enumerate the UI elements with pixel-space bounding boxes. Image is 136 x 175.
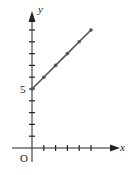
data-point — [42, 75, 46, 79]
y-axis-label: y — [37, 3, 43, 15]
line-chart: y x O 5 — [0, 0, 136, 175]
data-point — [66, 52, 70, 56]
x-axis-label: x — [119, 141, 125, 153]
origin-label: O — [20, 152, 28, 164]
series-line — [32, 30, 91, 89]
y-axis-arrow-icon — [29, 11, 36, 22]
data-point — [30, 87, 34, 91]
data-point — [89, 28, 93, 32]
y-tick-label-5: 5 — [20, 83, 26, 95]
axis-ticks — [29, 30, 91, 151]
data-point — [54, 64, 58, 68]
data-series — [30, 28, 93, 91]
axes — [12, 11, 120, 162]
data-point — [77, 40, 81, 44]
x-axis-arrow-icon — [110, 145, 120, 152]
